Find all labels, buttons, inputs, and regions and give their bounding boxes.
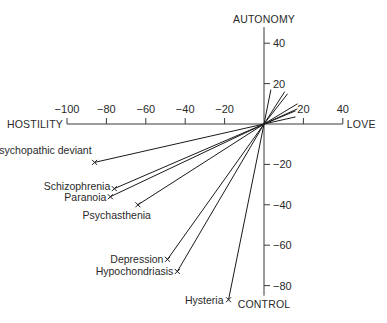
x-tick-label: 40 (337, 103, 349, 115)
x-tick-label: −60 (136, 103, 155, 115)
y-axis-negative-label: CONTROL (238, 298, 291, 310)
x-tick-label: −80 (97, 103, 116, 115)
y-tick-label: −80 (273, 280, 292, 292)
point-label: Psychopathic deviant (0, 144, 92, 156)
x-tick-label: −40 (176, 103, 195, 115)
x-axis-negative-label: HOSTILITY (7, 118, 63, 130)
y-tick-label: −20 (273, 158, 292, 170)
x-tick-label: −20 (215, 103, 234, 115)
y-tick-label: 20 (273, 78, 285, 90)
data-labels: Psychopathic deviantSchizophreniaParanoi… (0, 144, 224, 305)
x-tick-label: −100 (55, 103, 80, 115)
y-tick-label: −40 (273, 199, 292, 211)
ray-psychopathic-deviant (95, 124, 264, 162)
point-label: Hypochondriasis (96, 265, 174, 277)
chart: −100−80−60−40−202040HOSTILITYLOVE4020−20… (0, 0, 387, 323)
unlabeled-ray (264, 104, 297, 124)
y-tick-label: −60 (273, 239, 292, 251)
axes: −100−80−60−40−202040HOSTILITYLOVE4020−20… (7, 13, 376, 310)
ray-hypochondriasis (177, 124, 264, 271)
point-label: Hysteria (185, 294, 224, 306)
point-label: Paranoia (64, 191, 106, 203)
y-tick-label: 40 (273, 37, 285, 49)
ray-hysteria (229, 124, 264, 300)
ray-paranoia (110, 124, 264, 197)
x-axis-positive-label: LOVE (347, 118, 376, 130)
x-tick-label: 20 (297, 103, 309, 115)
point-label: Psychasthenia (83, 209, 151, 221)
y-axis-positive-label: AUTONOMY (233, 13, 295, 25)
ray-psychasthenia (138, 124, 264, 205)
point-label: Depression (110, 253, 163, 265)
